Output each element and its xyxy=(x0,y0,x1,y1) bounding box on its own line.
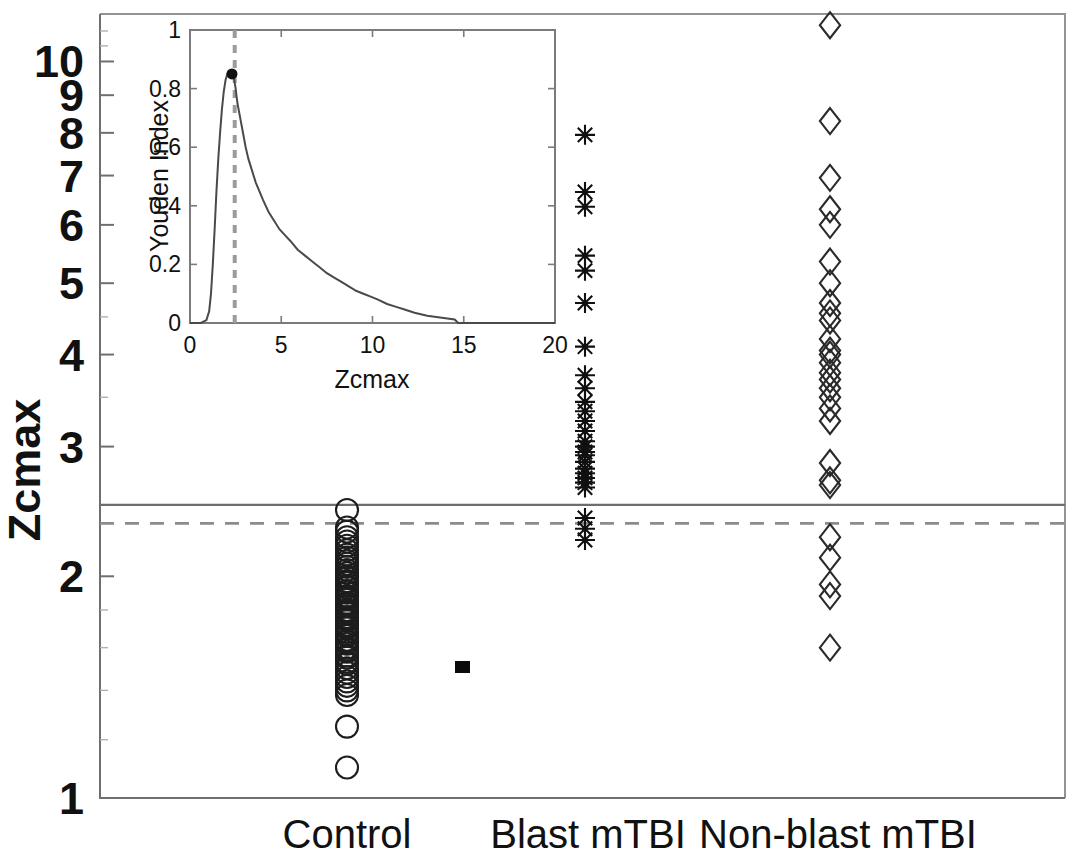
inset-optimum-marker xyxy=(226,68,237,79)
inset-x-tick-label-3: 15 xyxy=(451,332,477,358)
data-point-star-core xyxy=(582,418,587,423)
inset-y-tick-label-4: 0.8 xyxy=(149,76,181,102)
inset-x-axis-title: Zcmax xyxy=(335,365,411,393)
data-point-star-core xyxy=(582,373,587,378)
group-label-non-blast-mtbi: Non-blast mTBI xyxy=(699,812,977,856)
data-point-star-core xyxy=(582,253,587,258)
y-tick-label-2: 2 xyxy=(59,551,84,602)
data-point-star-core xyxy=(582,537,587,542)
y-tick-label-4: 4 xyxy=(59,330,84,381)
data-point-star-core xyxy=(582,189,587,194)
inset-y-axis-title: Youden Index xyxy=(145,100,173,253)
data-point-star-core xyxy=(582,386,587,391)
stray-black-square-artifact xyxy=(455,661,470,673)
figure-container: 12345678910 Zcmax Control Blast mTBI Non… xyxy=(0,0,1080,862)
data-point-star-core xyxy=(582,485,587,490)
data-point-star-core xyxy=(582,132,587,137)
data-point-star-core xyxy=(582,268,587,273)
y-tick-label-10: 10 xyxy=(34,36,84,87)
y-axis-title: Zcmax xyxy=(0,399,50,542)
inset-x-tick-label-1: 5 xyxy=(275,332,288,358)
y-tick-label-1: 1 xyxy=(59,773,84,824)
inset-y-tick-label-5: 1 xyxy=(168,17,181,43)
y-tick-label-3: 3 xyxy=(59,422,84,473)
inset-x-tick-label-2: 10 xyxy=(360,332,386,358)
y-tick-label-6: 6 xyxy=(59,200,84,251)
group-label-blast-mtbi: Blast mTBI xyxy=(490,812,686,856)
inset-x-tick-label-0: 0 xyxy=(184,332,197,358)
y-tick-label-5: 5 xyxy=(59,258,84,309)
inset-y-tick-label-0: 0 xyxy=(168,310,181,336)
inset-x-tick-label-4: 20 xyxy=(542,332,568,358)
inset-optimum-dot xyxy=(226,68,237,79)
group-label-control: Control xyxy=(283,812,412,856)
data-point-star-core xyxy=(582,344,587,349)
scatter-plot-svg: 12345678910 Zcmax Control Blast mTBI Non… xyxy=(0,0,1080,862)
inset-frame xyxy=(190,30,555,323)
inset-y-tick-label-1: 0.2 xyxy=(149,251,181,277)
data-point-star-core xyxy=(582,300,587,305)
data-point-star-core xyxy=(582,204,587,209)
